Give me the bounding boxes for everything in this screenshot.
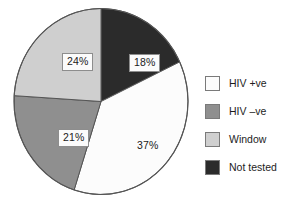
slice-value-label-hiv-positive: 37%	[136, 138, 159, 154]
chart-legend: HIV +ve HIV –ve Window Not tested	[205, 75, 293, 175]
slice-value-label-not-tested: 18%	[129, 54, 160, 72]
legend-label-hiv-negative: HIV –ve	[229, 106, 266, 117]
legend-item-window: Window	[205, 131, 293, 147]
slice-value-label-window: 24%	[62, 53, 93, 71]
legend-label-hiv-positive: HIV +ve	[229, 78, 267, 89]
legend-swatch-icon-window	[205, 132, 220, 147]
legend-item-not-tested: Not tested	[205, 159, 293, 175]
slice-value-label-hiv-negative: 21%	[58, 129, 89, 147]
pie-slice-group	[14, 8, 188, 194]
legend-label-not-tested: Not tested	[229, 162, 277, 173]
legend-label-window: Window	[229, 134, 266, 145]
pie-chart-svg	[12, 7, 190, 197]
legend-item-hiv-positive: HIV +ve	[205, 75, 293, 91]
pie-chart-figure: 18% 37% 21% 24% HIV +ve HIV –ve Window N…	[0, 0, 295, 208]
pie-chart-plot-area: 18% 37% 21% 24%	[12, 7, 190, 197]
legend-item-hiv-negative: HIV –ve	[205, 103, 293, 119]
legend-swatch-icon-hiv-negative	[205, 104, 220, 119]
legend-swatch-icon-hiv-positive	[205, 76, 220, 91]
legend-swatch-icon-not-tested	[205, 160, 220, 175]
